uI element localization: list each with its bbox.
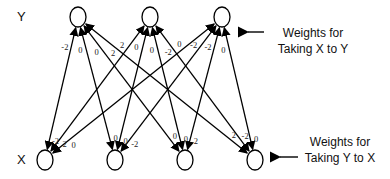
layer-label-y: Y [17,9,26,24]
node-y3 [214,7,230,27]
weight-label-x-to-y: 0 [150,45,154,55]
weight-label-y-to-x: 2 [232,130,236,140]
annotation-line-2: Taking Y to X [298,150,382,166]
weight-label-x-to-y: -2 [205,42,212,52]
weight-label-x-to-y: 2 [111,48,115,58]
weight-label-x-to-y: -2 [61,42,68,52]
weight-label-group: -2-2000022220000-2-200-2-2-2200 [52,39,258,150]
weight-label-x-to-y: -2 [190,40,197,50]
weight-label-x-to-y: 0 [221,45,225,55]
node-x4 [247,150,263,170]
weight-label-y-to-x: -2 [242,131,249,141]
edge-group [47,24,253,153]
weight-label-x-to-y: 2 [120,40,124,50]
weight-label-y-to-x: -2 [131,139,138,149]
annotation-weights-y-to-x: Weights for Taking Y to X [298,134,382,166]
node-x3 [177,150,193,170]
weight-label-y-to-x: 0 [114,133,118,143]
weight-label-x-to-y: 0 [134,42,138,52]
weight-label-x-to-y: 0 [78,45,82,55]
node-x2 [107,150,123,170]
edge-y1-x2 [81,28,113,150]
weight-label-y-to-x: 2 [62,139,66,149]
annotation-line-1: Weights for [272,25,354,41]
weight-label-y-to-x: -2 [52,136,59,146]
annotation-line-1: Weights for [298,134,382,150]
weight-label-x-to-y: 0 [95,47,99,57]
weight-label-x-to-y: -2 [165,47,172,57]
annotation-weights-x-to-y: Weights for Taking X to Y [272,25,354,57]
node-y1 [70,7,86,27]
layer-label-x: X [17,152,26,167]
node-y2 [142,7,158,27]
weight-label-y-to-x: 0 [254,134,258,144]
node-x1 [37,150,53,170]
weight-label-y-to-x: 0 [124,136,128,146]
weight-label-y-to-x: 2 [194,136,198,146]
weight-label-x-to-y: 0 [177,39,181,49]
annotation-line-2: Taking X to Y [272,41,354,57]
weight-label-y-to-x: 0 [173,131,177,141]
weight-label-y-to-x: 0 [71,140,75,150]
weight-label-y-to-x: 0 [184,134,188,144]
